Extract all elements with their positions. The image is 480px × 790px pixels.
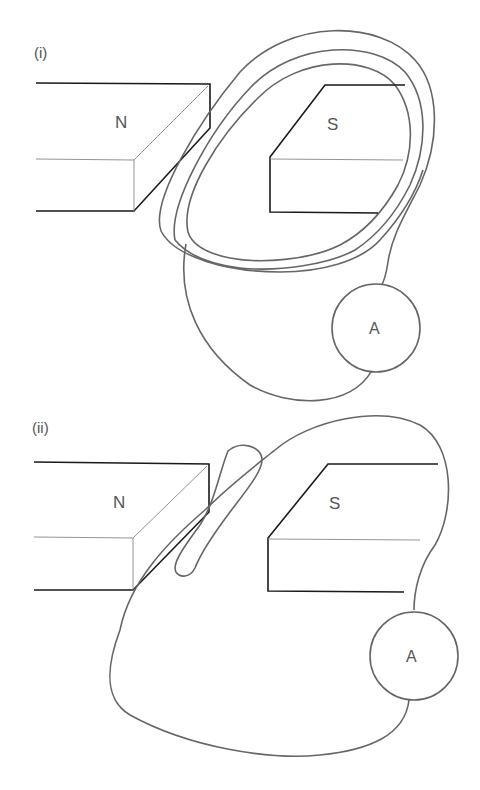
part-i: (i) N S A (34, 31, 434, 401)
ammeter-label: A (369, 320, 380, 337)
south-magnet-ii: S (268, 464, 438, 592)
coil-ii (110, 416, 449, 756)
ammeter-ii: A (370, 612, 458, 700)
ammeter-label-ii: A (406, 648, 417, 665)
south-magnet-i: S (270, 85, 405, 213)
part-ii-label: (ii) (32, 419, 49, 436)
ammeter-i: A (332, 284, 420, 372)
north-magnet-ii: N (34, 462, 209, 590)
south-pole-label-ii: S (329, 494, 340, 513)
south-pole-label: S (327, 115, 338, 134)
north-pole-label: N (115, 113, 127, 132)
north-pole-label-ii: N (113, 493, 125, 512)
induction-diagram: (i) N S A (0, 0, 480, 790)
part-i-label: (i) (34, 44, 47, 61)
part-ii: (ii) N S A (32, 416, 458, 756)
